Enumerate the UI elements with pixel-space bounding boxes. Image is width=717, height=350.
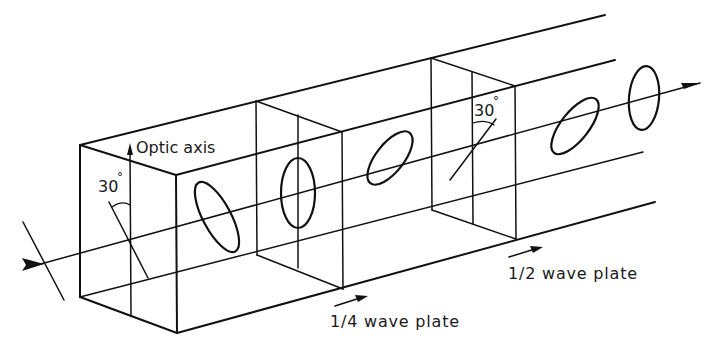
degree-mark-half: ° <box>493 94 499 108</box>
quarter-wave-plate-label: 1/4 wave plate <box>330 312 460 331</box>
half-plate-arrowhead-icon <box>530 246 543 253</box>
ellipse-3 <box>359 124 420 192</box>
optic-axis <box>130 150 131 316</box>
optics-diagram: Optic axis 30 ° 30 ° 1/4 wave plate 1/2 … <box>0 0 717 350</box>
ellipse-1 <box>186 176 247 258</box>
angle-label-half: 30 <box>474 101 494 120</box>
angle-arc-2 <box>473 121 494 125</box>
quarter-plate-label-arrow <box>335 298 360 306</box>
polarizer-direction-line <box>109 202 148 278</box>
half-plate-label-arrow <box>509 249 535 257</box>
angle-label-input: 30 <box>98 177 118 196</box>
degree-mark-input: ° <box>117 170 123 184</box>
half-wave-plate-label: 1/2 wave plate <box>508 264 638 283</box>
optic-axis-label: Optic axis <box>136 138 215 157</box>
ellipse-4 <box>543 91 607 162</box>
quarter-plate-arrowhead-icon <box>355 295 368 302</box>
beam-input-arrowhead-icon <box>22 258 44 271</box>
optic-axis-arrowhead-icon <box>127 143 133 155</box>
beam-output-arrowhead-icon <box>681 83 700 89</box>
quarter-wave-plate <box>256 101 343 289</box>
angle-arc-1 <box>112 203 130 207</box>
